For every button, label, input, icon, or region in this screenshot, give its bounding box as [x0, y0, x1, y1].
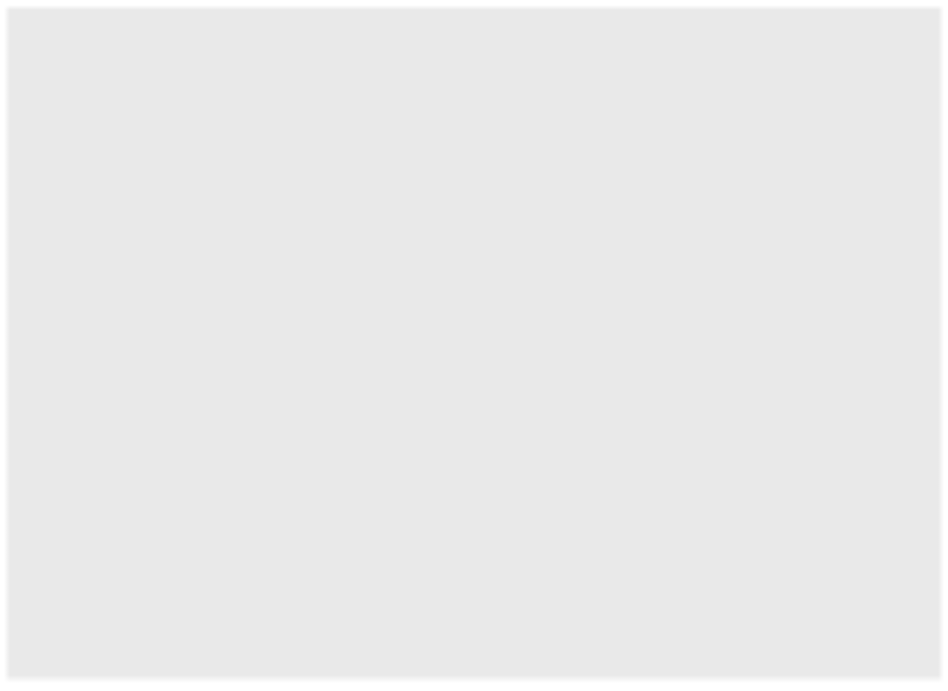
- inflation-chart-figure: Amount Needed to Purchase the Same Baske…: [0, 0, 948, 691]
- gold-standard-annotation-label: When the U.S. went off the gold standard: [430, 170, 612, 224]
- gold-standard-annotation-arrow: [0, 0, 948, 691]
